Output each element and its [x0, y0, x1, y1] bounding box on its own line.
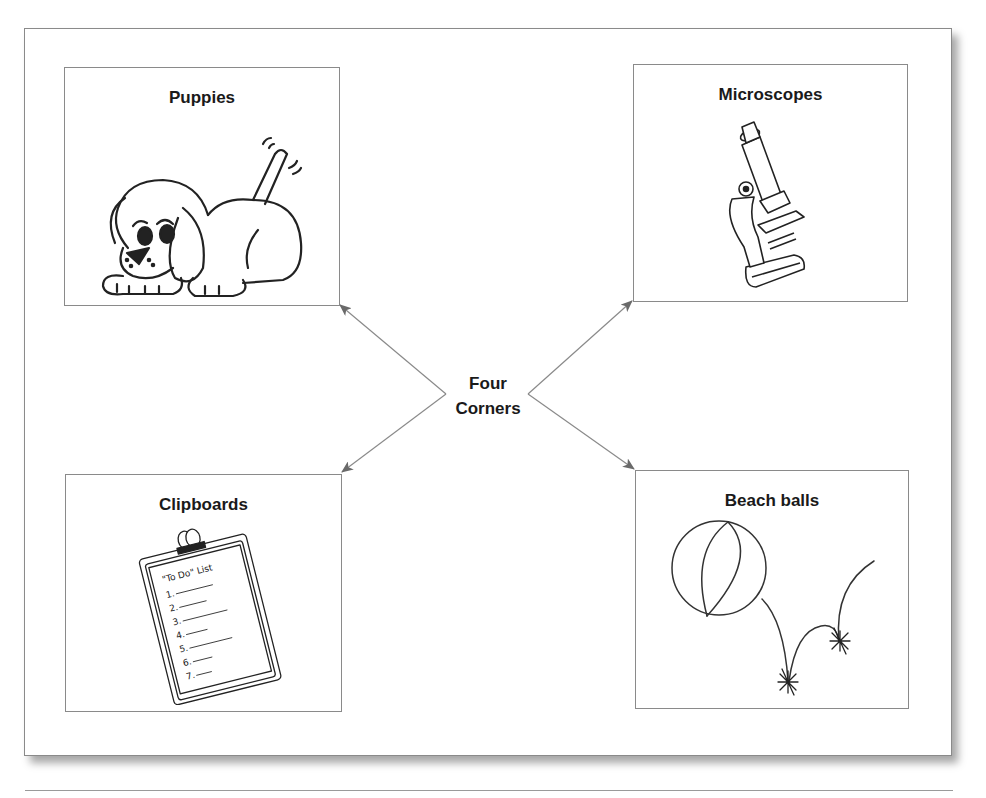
- corner-title-microscopes: Microscopes: [634, 85, 907, 105]
- corner-title-clipboards: Clipboards: [66, 495, 341, 515]
- corner-box-clipboards: Clipboards "To Do" List: [65, 474, 342, 712]
- arrow-to-microscopes: [528, 301, 632, 394]
- puppy-icon: [83, 118, 323, 298]
- arrow-to-clipboards: [342, 394, 446, 472]
- corner-box-puppies: Puppies: [64, 67, 340, 306]
- corner-box-beach-balls: Beach balls: [635, 470, 909, 709]
- center-topic: Four Corners: [438, 371, 538, 421]
- corner-title-puppies: Puppies: [65, 88, 339, 108]
- microscope-icon: [724, 117, 824, 297]
- clipboard-icon: "To Do" List 1. 2. 3. 4. 5. 6. 7.: [132, 525, 282, 705]
- beach-ball-icon: [636, 471, 908, 708]
- arrow-to-puppies: [340, 305, 446, 394]
- corner-box-microscopes: Microscopes: [633, 64, 908, 302]
- center-topic-line2: Corners: [438, 396, 538, 421]
- arrow-to-beach-balls: [528, 394, 634, 469]
- center-topic-line1: Four: [438, 371, 538, 396]
